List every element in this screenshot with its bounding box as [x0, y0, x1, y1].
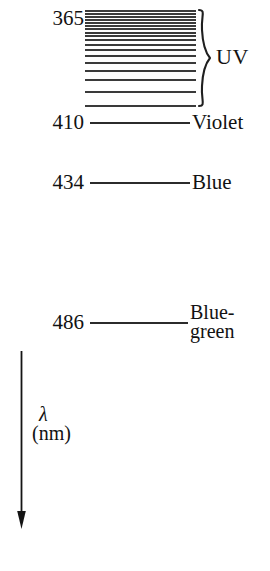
uv-line	[85, 44, 196, 46]
wavelength-label-410: 410	[32, 112, 84, 133]
wavelength-axis-label: λ (nm)	[32, 406, 71, 444]
uv-line	[85, 10, 196, 12]
color-label-blue-green-line2: green	[190, 322, 234, 341]
spectral-line-434	[90, 182, 190, 184]
uv-line	[85, 91, 196, 93]
wavelength-label-434: 434	[32, 172, 84, 193]
uv-line	[85, 55, 196, 57]
uv-line	[85, 39, 196, 41]
uv-line	[85, 19, 196, 21]
uv-line	[85, 13, 196, 15]
wavelength-label-365: 365	[32, 8, 84, 29]
uv-line	[85, 70, 196, 72]
color-label-blue-green: Blue- green	[190, 303, 234, 341]
uv-line	[85, 105, 196, 107]
spectral-diagram: 365 UV 410 Violet 434 Blue 486 B	[0, 0, 270, 571]
uv-line	[85, 28, 196, 30]
uv-line	[85, 25, 196, 27]
spectral-line-486	[90, 322, 188, 324]
color-label-blue: Blue	[192, 172, 232, 193]
uv-line	[85, 22, 196, 24]
lambda-symbol: λ	[32, 406, 71, 423]
uv-line	[85, 16, 196, 18]
uv-group-label: UV	[216, 46, 249, 68]
wavelength-label-486: 486	[32, 312, 84, 333]
uv-line	[85, 35, 196, 37]
uv-line	[85, 49, 196, 51]
color-label-violet: Violet	[192, 112, 243, 133]
uv-line	[85, 32, 196, 34]
uv-line	[85, 79, 196, 81]
nanometer-unit: (nm)	[32, 423, 71, 444]
uv-brace	[196, 8, 214, 108]
wavelength-axis-arrow	[12, 348, 34, 533]
uv-line	[85, 62, 196, 64]
spectral-line-410	[90, 122, 190, 124]
